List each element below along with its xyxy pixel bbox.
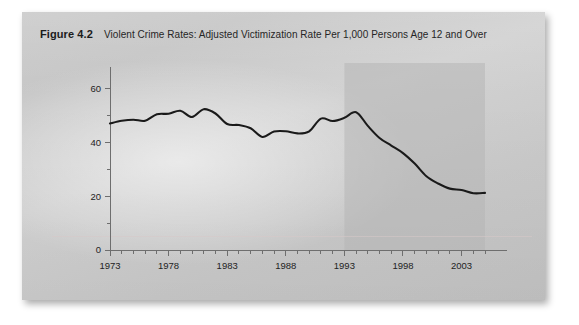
- x-tick-label: 1993: [334, 260, 355, 271]
- x-tick-label: 2003: [451, 260, 472, 271]
- highlight-band-rect: [344, 63, 485, 250]
- x-axis-ticks: [110, 250, 485, 256]
- y-tick-label: 0: [96, 244, 101, 255]
- y-tick-label: 60: [90, 83, 101, 94]
- x-tick-label: 1978: [158, 260, 179, 271]
- x-tick-label: 1983: [217, 260, 238, 271]
- x-tick-label: 1973: [99, 260, 120, 271]
- x-tick-label: 1998: [392, 260, 413, 271]
- highlight-band: [344, 63, 485, 250]
- y-tick-label: 20: [90, 191, 101, 202]
- y-axis-ticks: [105, 88, 110, 250]
- y-axis-tick-labels: 0204060: [90, 83, 101, 256]
- y-tick-label: 40: [90, 137, 101, 148]
- x-axis-tick-labels: 1973197819831988199319982003: [99, 260, 472, 271]
- figure-card: Figure 4.2Violent Crime Rates: Adjusted …: [22, 12, 545, 300]
- line-chart-svg: 0204060 1973197819831988199319982003: [22, 12, 545, 300]
- x-tick-label: 1988: [275, 260, 296, 271]
- chart-plot-area: 0204060 1973197819831988199319982003: [22, 12, 545, 300]
